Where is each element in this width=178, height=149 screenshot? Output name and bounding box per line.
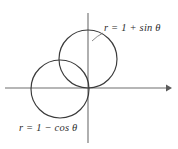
x-axis-arrowhead [166, 85, 172, 92]
polar-curves-figure: r = 1 + sin θ r = 1 − cos θ [0, 0, 178, 149]
curve-r-1-minus-cos-theta [31, 60, 89, 118]
curve-label-r-1-minus-cos-theta: r = 1 − cos θ [19, 122, 77, 133]
upper-label-leader-line [92, 33, 103, 41]
curve-label-r-1-plus-sin-theta: r = 1 + sin θ [104, 22, 161, 33]
